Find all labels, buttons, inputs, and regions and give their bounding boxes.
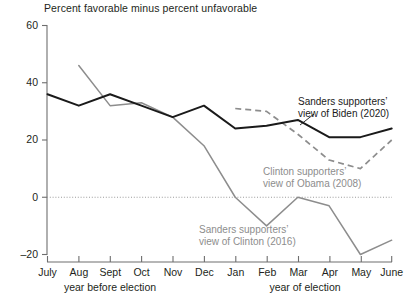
annotation-clinton-line1: Sanders supporters’ (199, 224, 296, 236)
annotation-obama-line2: view of Obama (2008) (263, 178, 361, 190)
annotation-sanders-view-of-biden: Sanders supporters’ view of Biden (2020) (298, 96, 389, 120)
y-tick-label-minus20: –20 (12, 249, 38, 260)
annotation-biden-line1: Sanders supporters’ (298, 96, 389, 108)
annotation-biden-line2: view of Biden (2020) (298, 108, 389, 120)
annotation-sanders-view-of-clinton: Sanders supporters’ view of Clinton (201… (199, 224, 296, 248)
annotation-clinton-line2: view of Clinton (2016) (199, 236, 296, 248)
x-group-label-year-of-election: year of election (250, 282, 360, 293)
annotation-clinton-view-of-obama: Clinton supporters’ view of Obama (2008) (263, 166, 361, 190)
y-tick-label-0: 0 (12, 192, 38, 203)
y-tick-label-40: 40 (12, 77, 38, 88)
y-tick-label-20: 20 (12, 134, 38, 145)
x-group-label-year-before-election: year before election (50, 282, 170, 293)
annotation-obama-line1: Clinton supporters’ (263, 166, 361, 178)
y-tick-label-60: 60 (12, 20, 38, 31)
x-tick-marks (48, 256, 392, 262)
x-tick-label-june: June (372, 267, 408, 278)
